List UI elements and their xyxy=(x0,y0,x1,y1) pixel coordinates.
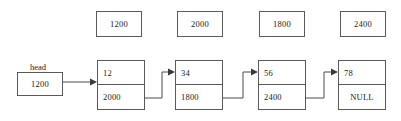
list-node-1-data: 12 xyxy=(98,61,144,85)
address-box-2: 2000 xyxy=(177,11,223,37)
address-box-1: 1200 xyxy=(96,11,142,37)
list-node-4-data: 78 xyxy=(339,61,385,85)
list-node-3-data: 56 xyxy=(259,61,305,85)
address-box-3-value: 1800 xyxy=(273,19,291,29)
arrow-node-1-to-node-2 xyxy=(145,69,175,99)
address-box-2-value: 2000 xyxy=(191,19,209,29)
list-node-1-next: 2000 xyxy=(98,85,144,109)
address-box-3: 1800 xyxy=(259,11,305,37)
arrow-head-to-node-1 xyxy=(63,79,97,86)
head-pointer-label: head xyxy=(30,62,46,72)
list-node-4-next: NULL xyxy=(339,85,385,109)
list-node-2-next: 1800 xyxy=(176,85,222,109)
list-node-3: 56 2400 xyxy=(258,60,306,110)
linked-list-diagram: 1200 2000 1800 2400 head 1200 12 2000 34… xyxy=(0,0,401,121)
list-node-3-next: 2400 xyxy=(259,85,305,109)
arrow-node-2-to-node-3 xyxy=(223,69,258,99)
list-node-2-data: 34 xyxy=(176,61,222,85)
list-node-2: 34 1800 xyxy=(175,60,223,110)
address-box-1-value: 1200 xyxy=(110,19,128,29)
list-node-1: 12 2000 xyxy=(97,60,145,110)
address-box-4: 2400 xyxy=(340,11,386,37)
head-pointer-box: 1200 xyxy=(17,72,63,96)
arrow-node-3-to-node-4 xyxy=(306,69,338,99)
head-pointer-value: 1200 xyxy=(31,79,49,89)
address-box-4-value: 2400 xyxy=(354,19,372,29)
list-node-4: 78 NULL xyxy=(338,60,386,110)
